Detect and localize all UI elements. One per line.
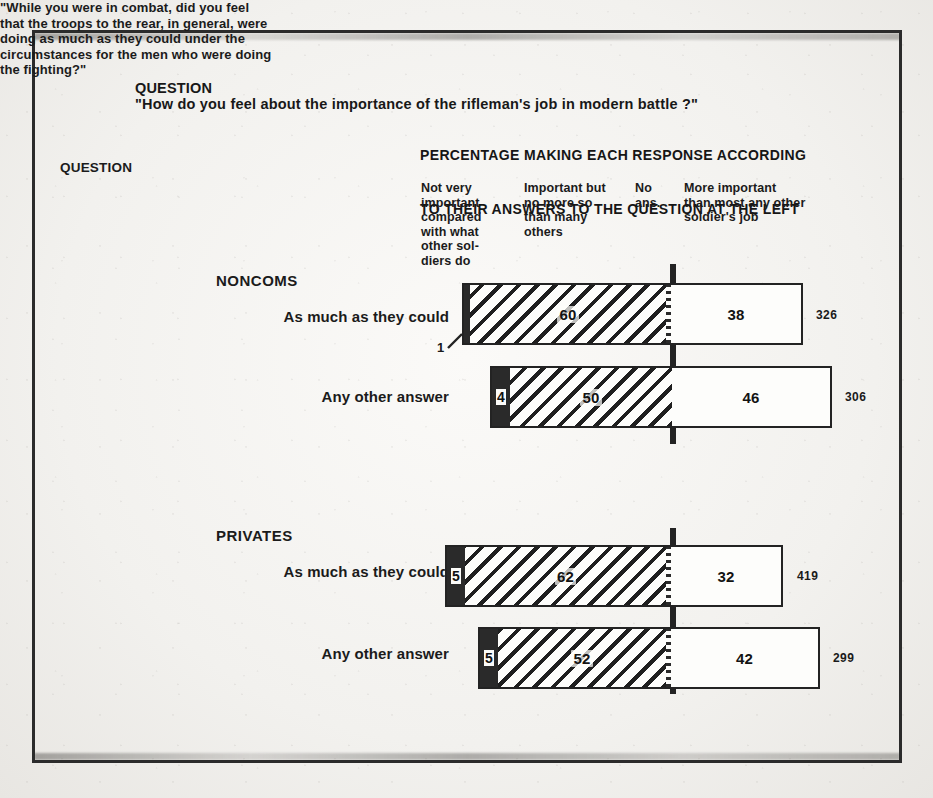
bar-privates-as-much: 5 62 32 bbox=[445, 545, 783, 607]
segment-more-important-r1: 38 bbox=[671, 283, 803, 345]
value-more-important-r1: 38 bbox=[727, 306, 744, 323]
column-header-not-very-important: Not very important compared with what ot… bbox=[421, 181, 483, 268]
segment-important-but-no-more-r1: 60 bbox=[470, 283, 666, 345]
segment-more-important-r2: 46 bbox=[672, 366, 832, 428]
value-more-important-r4: 42 bbox=[736, 650, 753, 667]
n-label-r1: 326 bbox=[816, 308, 837, 322]
segment-more-important-r3: 32 bbox=[671, 545, 783, 607]
n-label-r3: 419 bbox=[797, 569, 818, 583]
row-label-noncoms-as-much: As much as they could bbox=[179, 308, 449, 325]
column-header-no-answer: No ans. bbox=[635, 181, 677, 210]
bar-noncoms-any-other: 4 50 46 bbox=[490, 366, 832, 428]
top-question-prefix: QUESTION bbox=[135, 80, 212, 96]
value-more-important-r3: 32 bbox=[717, 568, 734, 585]
row-label-privates-any-other: Any other answer bbox=[179, 645, 449, 662]
left-question-prefix: QUESTION bbox=[60, 160, 132, 175]
column-header-important-but-no-more: Important but no more so than many other… bbox=[524, 181, 616, 239]
segment-important-but-no-more-r3: 62 bbox=[465, 545, 666, 607]
row-label-privates-as-much: As much as they could bbox=[179, 563, 449, 580]
value-not-very-important-r4: 5 bbox=[484, 650, 494, 666]
value-not-very-important-r3: 5 bbox=[451, 568, 461, 584]
bar-privates-any-other: 5 52 42 bbox=[478, 627, 820, 689]
value-important-r1: 60 bbox=[557, 306, 578, 323]
segment-important-but-no-more-r4: 52 bbox=[498, 627, 666, 689]
value-important-r3: 62 bbox=[555, 568, 576, 585]
group-label-noncoms: NONCOMS bbox=[216, 272, 298, 289]
n-label-r4: 299 bbox=[833, 651, 854, 665]
percentage-header-line1: PERCENTAGE MAKING EACH RESPONSE ACCORDIN… bbox=[420, 146, 806, 164]
bar-noncoms-as-much: 60 38 bbox=[462, 283, 803, 345]
segment-important-but-no-more-r2: 50 bbox=[510, 366, 672, 428]
chart-stage: QUESTION "How do you feel about the impo… bbox=[0, 0, 933, 798]
callout-value-1: 1 bbox=[437, 340, 444, 355]
value-important-r2: 50 bbox=[580, 389, 601, 406]
segment-more-important-r4: 42 bbox=[671, 627, 820, 689]
value-not-very-important-r2: 4 bbox=[496, 389, 506, 405]
segment-not-very-important-r2: 4 bbox=[490, 366, 510, 428]
group-label-privates: PRIVATES bbox=[216, 527, 293, 544]
segment-not-very-important-r3: 5 bbox=[445, 545, 465, 607]
column-header-more-important: More important than most any other soldi… bbox=[684, 181, 806, 225]
value-more-important-r2: 46 bbox=[742, 389, 759, 406]
n-label-r2: 306 bbox=[845, 390, 866, 404]
segment-not-very-important-r4: 5 bbox=[478, 627, 498, 689]
value-important-r4: 52 bbox=[571, 650, 592, 667]
row-label-noncoms-any-other: Any other answer bbox=[179, 388, 449, 405]
callout-leader-line bbox=[447, 333, 463, 347]
